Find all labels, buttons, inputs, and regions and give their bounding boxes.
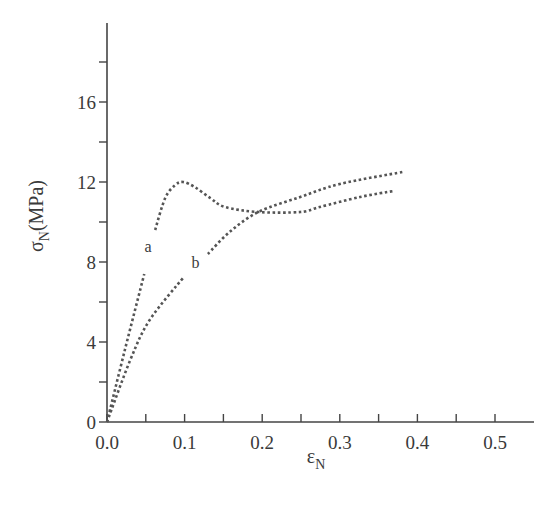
x-axis-title-main: ε — [307, 445, 315, 467]
y-tick-label: 12 — [77, 172, 96, 193]
curve-b — [107, 277, 184, 422]
x-tick-label: 0.0 — [95, 432, 119, 453]
x-tick-label: 0.2 — [250, 432, 274, 453]
y-tick-label: 0 — [87, 412, 97, 433]
curve-label-a: a — [145, 238, 152, 255]
curve-a — [107, 274, 144, 422]
x-tick-label: 0.4 — [406, 432, 430, 453]
curve-a — [155, 182, 393, 230]
x-tick-label: 0.3 — [328, 432, 352, 453]
y-axis: 0481216 — [77, 23, 107, 433]
curve-label-b: b — [191, 254, 199, 271]
y-tick-label: 8 — [87, 252, 97, 273]
y-tick-label: 4 — [87, 332, 97, 353]
y-axis-title-sub: N — [37, 231, 52, 241]
x-tick-label: 0.1 — [173, 432, 197, 453]
curve-labels: ab — [145, 238, 200, 271]
x-tick-label: 0.5 — [483, 432, 507, 453]
x-axis-title: εN — [307, 445, 326, 472]
y-axis-title-main: σ — [25, 241, 47, 252]
stress-strain-chart: 0.00.10.20.30.40.5 0481216 ab εN σN(MPa) — [0, 0, 554, 511]
series-layer — [107, 172, 403, 422]
y-axis-title: σN(MPa) — [25, 180, 52, 252]
y-axis-title-unit: (MPa) — [25, 180, 48, 231]
y-tick-label: 16 — [77, 92, 96, 113]
curve-b — [208, 172, 403, 254]
x-axis-title-sub: N — [315, 457, 325, 472]
